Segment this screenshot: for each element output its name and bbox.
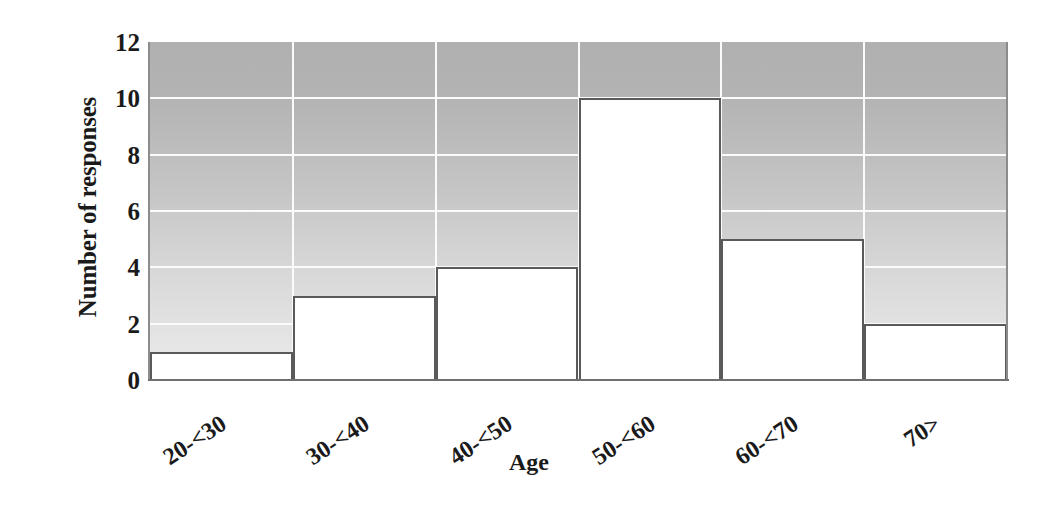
bar bbox=[579, 98, 722, 380]
bar bbox=[721, 239, 864, 380]
bar bbox=[864, 324, 1007, 380]
x-axis-title: Age bbox=[0, 449, 1058, 476]
y-tick-label: 10 bbox=[96, 86, 140, 111]
y-tick-label: 0 bbox=[96, 368, 140, 393]
y-tick-label: 8 bbox=[96, 142, 140, 167]
y-tick-label: 6 bbox=[96, 199, 140, 224]
bar bbox=[150, 352, 293, 380]
bar bbox=[293, 296, 436, 381]
plot-area bbox=[150, 42, 1007, 380]
bars-layer bbox=[150, 42, 1007, 380]
x-axis-line bbox=[148, 379, 1009, 381]
y-axis-tick-labels: 024681012 bbox=[96, 42, 140, 380]
y-tick-label: 12 bbox=[96, 30, 140, 55]
histogram-figure: Number of responses 024681012 20-<3030-<… bbox=[0, 0, 1058, 518]
bar bbox=[436, 267, 579, 380]
y-tick-label: 4 bbox=[96, 255, 140, 280]
y-tick-label: 2 bbox=[96, 311, 140, 336]
plot-right-border bbox=[1006, 42, 1008, 381]
